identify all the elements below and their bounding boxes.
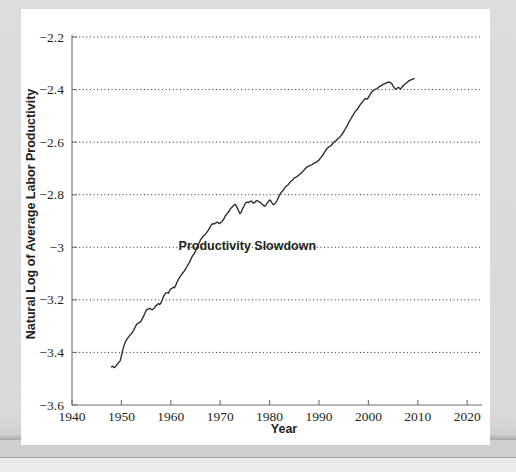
x-tick-label: 1950 — [108, 409, 135, 424]
y-tick-label: −3 — [50, 240, 65, 255]
y-axis-title: Natural Log of Average Labor Productivit… — [24, 89, 38, 340]
y-tick-label: −3.4 — [40, 345, 65, 360]
x-tick-label: 2020 — [454, 409, 481, 424]
x-tick-label: 1970 — [207, 409, 234, 424]
page-bottom-strip — [0, 458, 516, 472]
y-tick-label: −2.6 — [40, 135, 65, 150]
y-tick-label: −2.8 — [40, 187, 65, 202]
x-axis-ticks — [72, 400, 467, 405]
y-tick-label: −2.2 — [40, 30, 65, 45]
gridlines — [72, 37, 482, 352]
y-axis-ticks — [72, 37, 77, 405]
x-axis-tick-labels: 194019501960197019801990200020102020 — [59, 409, 481, 424]
chart-annotations: Productivity Slowdown — [179, 239, 317, 253]
chart-canvas: 194019501960197019801990200020102020 −2.… — [21, 9, 490, 445]
x-tick-label: 1990 — [305, 409, 332, 424]
axis-lines — [72, 35, 482, 405]
series-productivity-line — [112, 79, 415, 368]
annotation-productivity-slowdown: Productivity Slowdown — [179, 239, 317, 253]
x-tick-label: 2000 — [355, 409, 382, 424]
figure-card: 194019501960197019801990200020102020 −2.… — [21, 9, 490, 445]
x-tick-label: 2010 — [404, 409, 431, 424]
x-tick-label: 1960 — [157, 409, 184, 424]
x-axis-title: Year — [271, 422, 298, 436]
y-axis-tick-labels: −2.2−2.4−2.6−2.8−3−3.2−3.4−3.6 — [40, 30, 65, 413]
y-tick-label: −3.6 — [40, 398, 65, 413]
data-line — [112, 79, 415, 368]
y-tick-label: −2.4 — [40, 82, 65, 97]
line-chart: 194019501960197019801990200020102020 −2.… — [21, 9, 490, 445]
y-tick-label: −3.2 — [40, 292, 65, 307]
